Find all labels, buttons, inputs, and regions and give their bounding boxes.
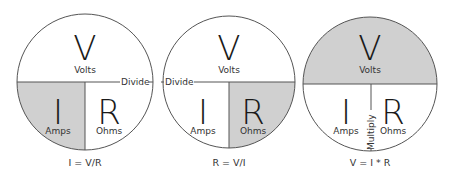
shaded-region-amps	[17, 82, 85, 150]
multiply-label: Multiply	[366, 114, 376, 150]
equation-label: V = I * R	[350, 157, 391, 168]
divide-label: Divide	[121, 77, 150, 87]
label-amps: Amps	[190, 126, 216, 136]
label-volts: Volts	[359, 65, 381, 75]
circle-voltage: Multiply V Volts I Amps R Ohms V = I * R	[303, 17, 437, 168]
label-amps: Amps	[45, 126, 71, 136]
divide-label: Divide	[165, 77, 194, 87]
circle-current: Divide V Volts I Amps R Ohms I = V/R	[17, 14, 153, 168]
letter-v: V	[73, 28, 96, 68]
circle-resistance: Divide V Volts I Amps R Ohms R = V/I	[161, 16, 295, 168]
label-amps: Amps	[333, 126, 359, 136]
label-ohms: Ohms	[380, 126, 407, 136]
label-ohms: Ohms	[96, 126, 123, 136]
label-volts: Volts	[218, 65, 240, 75]
letter-v: V	[358, 28, 381, 68]
equation-label: I = V/R	[68, 157, 102, 168]
label-ohms: Ohms	[240, 126, 267, 136]
letter-v: V	[217, 28, 240, 68]
label-volts: Volts	[74, 65, 96, 75]
equation-label: R = V/I	[212, 157, 245, 168]
ohms-law-diagram: Divide V Volts I Amps R Ohms I = V/R Div…	[0, 0, 455, 179]
